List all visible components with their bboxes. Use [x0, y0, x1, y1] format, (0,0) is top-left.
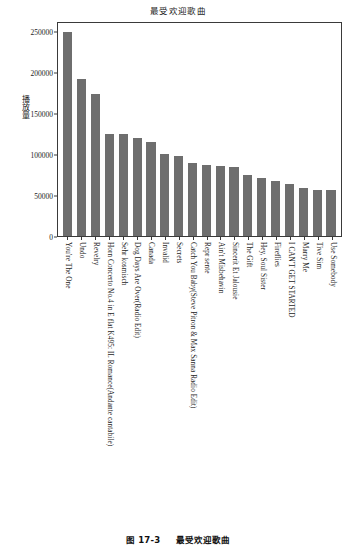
- x-tick-label: Marry Me: [300, 242, 308, 272]
- y-tick-label: 100000: [31, 150, 54, 159]
- bar: [146, 142, 155, 236]
- page-root: 最受欢迎歌曲 播放量 05000010000015000020000025000…: [0, 0, 356, 559]
- y-axis-ticks: 050000100000150000200000250000: [0, 22, 57, 237]
- x-tick-slot: Revelry: [88, 237, 102, 509]
- x-tick-label: Dog Days Are Over(Radio Edit): [133, 242, 141, 338]
- x-tick-slot: Repr sente: [200, 237, 214, 509]
- bar-slot: [172, 23, 186, 236]
- bar: [202, 165, 211, 236]
- x-tick-slot: Marry Me: [297, 237, 311, 509]
- bar-series: [58, 23, 341, 236]
- x-tick-label: Ain't Misbehavin: [217, 242, 225, 293]
- bar-slot: [269, 23, 283, 236]
- x-tick-slot: Dog Days Are Over(Radio Edit): [130, 237, 144, 509]
- bar: [105, 134, 114, 236]
- bar: [174, 156, 183, 236]
- bar: [326, 190, 335, 236]
- x-tick-mark: [137, 237, 138, 240]
- bar: [271, 181, 280, 236]
- bar: [216, 166, 225, 236]
- x-tick-label: Catch You Baby(Steve Pitron & Max Sanna …: [189, 242, 197, 409]
- bar: [285, 184, 294, 236]
- x-tick-mark: [262, 237, 263, 240]
- y-tick-label: 150000: [31, 109, 54, 118]
- bar: [119, 134, 128, 236]
- bar-slot: [296, 23, 310, 236]
- x-tick-slot: Catch You Baby(Steve Pitron & Max Sanna …: [186, 237, 200, 509]
- x-tick-label: Invalid: [161, 242, 169, 263]
- figure-caption-text: 最受欢迎歌曲: [176, 535, 230, 545]
- x-tick-slot: Hey, Soul Sister: [255, 237, 269, 509]
- bar: [188, 163, 197, 236]
- x-tick-slot: I CAN'T GET STARTED: [283, 237, 297, 509]
- x-tick-mark: [165, 237, 166, 240]
- y-tick-label: 200000: [31, 68, 54, 77]
- chart-title: 最受欢迎歌曲: [0, 4, 356, 16]
- figure-caption-number: 图 17-3: [126, 535, 160, 545]
- bar-slot: [283, 23, 297, 236]
- bar: [229, 167, 238, 236]
- x-tick-mark: [67, 237, 68, 240]
- x-tick-mark: [276, 237, 277, 240]
- x-tick-mark: [109, 237, 110, 240]
- bar: [91, 94, 100, 236]
- bar-slot: [199, 23, 213, 236]
- x-tick-mark: [179, 237, 180, 240]
- x-tick-mark: [332, 237, 333, 240]
- x-tick-mark: [123, 237, 124, 240]
- x-tick-label: Sincerit Et Jalousie: [231, 242, 239, 300]
- bar-slot: [116, 23, 130, 236]
- x-tick-label: Fireflies: [273, 242, 281, 267]
- bar-slot: [144, 23, 158, 236]
- bar-slot: [213, 23, 227, 236]
- bar-slot: [310, 23, 324, 236]
- x-tick-slot: Ain't Misbehavin: [213, 237, 227, 509]
- x-tick-label: Hey, Soul Sister: [259, 242, 267, 290]
- x-tick-slot: Fireflies: [269, 237, 283, 509]
- bar-slot: [89, 23, 103, 236]
- x-tick-label: Revelry: [91, 242, 99, 265]
- x-tick-slot: Tive Sim: [311, 237, 325, 509]
- x-tick-mark: [318, 237, 319, 240]
- bar-slot: [241, 23, 255, 236]
- figure-caption: 图 17-3 最受欢迎歌曲: [0, 533, 356, 545]
- x-tick-slot: Horn Concerto No.4 in E flat K495: II. R…: [102, 237, 116, 509]
- x-tick-label: Secrets: [175, 242, 183, 263]
- y-tick-label: 250000: [31, 27, 54, 36]
- x-tick-mark: [304, 237, 305, 240]
- chart-figure: 最受欢迎歌曲 播放量 05000010000015000020000025000…: [0, 0, 356, 510]
- x-tick-slot: You're The One: [60, 237, 74, 509]
- x-tick-label: Tive Sim: [314, 242, 322, 269]
- x-tick-mark: [220, 237, 221, 240]
- x-tick-slot: Invalid: [158, 237, 172, 509]
- bar: [133, 138, 142, 236]
- x-tick-label: Horn Concerto No.4 in E flat K495: II. R…: [105, 242, 113, 446]
- x-tick-slot: Undo: [74, 237, 88, 509]
- bar: [63, 32, 72, 236]
- x-tick-mark: [290, 237, 291, 240]
- x-tick-mark: [207, 237, 208, 240]
- x-tick-label: Canada: [147, 242, 155, 264]
- x-tick-label: Repr sente: [203, 242, 211, 274]
- bar: [313, 190, 322, 236]
- x-tick-mark: [95, 237, 96, 240]
- bar-slot: [227, 23, 241, 236]
- bar-slot: [255, 23, 269, 236]
- x-tick-label: I CAN'T GET STARTED: [286, 242, 294, 318]
- x-tick-label: Undo: [77, 242, 85, 258]
- x-tick-slot: The Gift: [241, 237, 255, 509]
- plot-area: [57, 22, 342, 237]
- x-tick-slot: Canada: [144, 237, 158, 509]
- x-tick-label: Use Somebody: [328, 242, 336, 287]
- y-tick-label: 50000: [34, 191, 53, 200]
- y-tick-label: 0: [49, 233, 53, 242]
- bar: [160, 154, 169, 236]
- x-tick-slot: Secrets: [172, 237, 186, 509]
- x-tick-mark: [234, 237, 235, 240]
- x-tick-slot: Sincerit Et Jalousie: [227, 237, 241, 509]
- bar-slot: [130, 23, 144, 236]
- bar-slot: [61, 23, 75, 236]
- x-tick-label: Sehr kosmisch: [119, 242, 127, 285]
- x-tick-slot: Sehr kosmisch: [116, 237, 130, 509]
- x-tick-mark: [248, 237, 249, 240]
